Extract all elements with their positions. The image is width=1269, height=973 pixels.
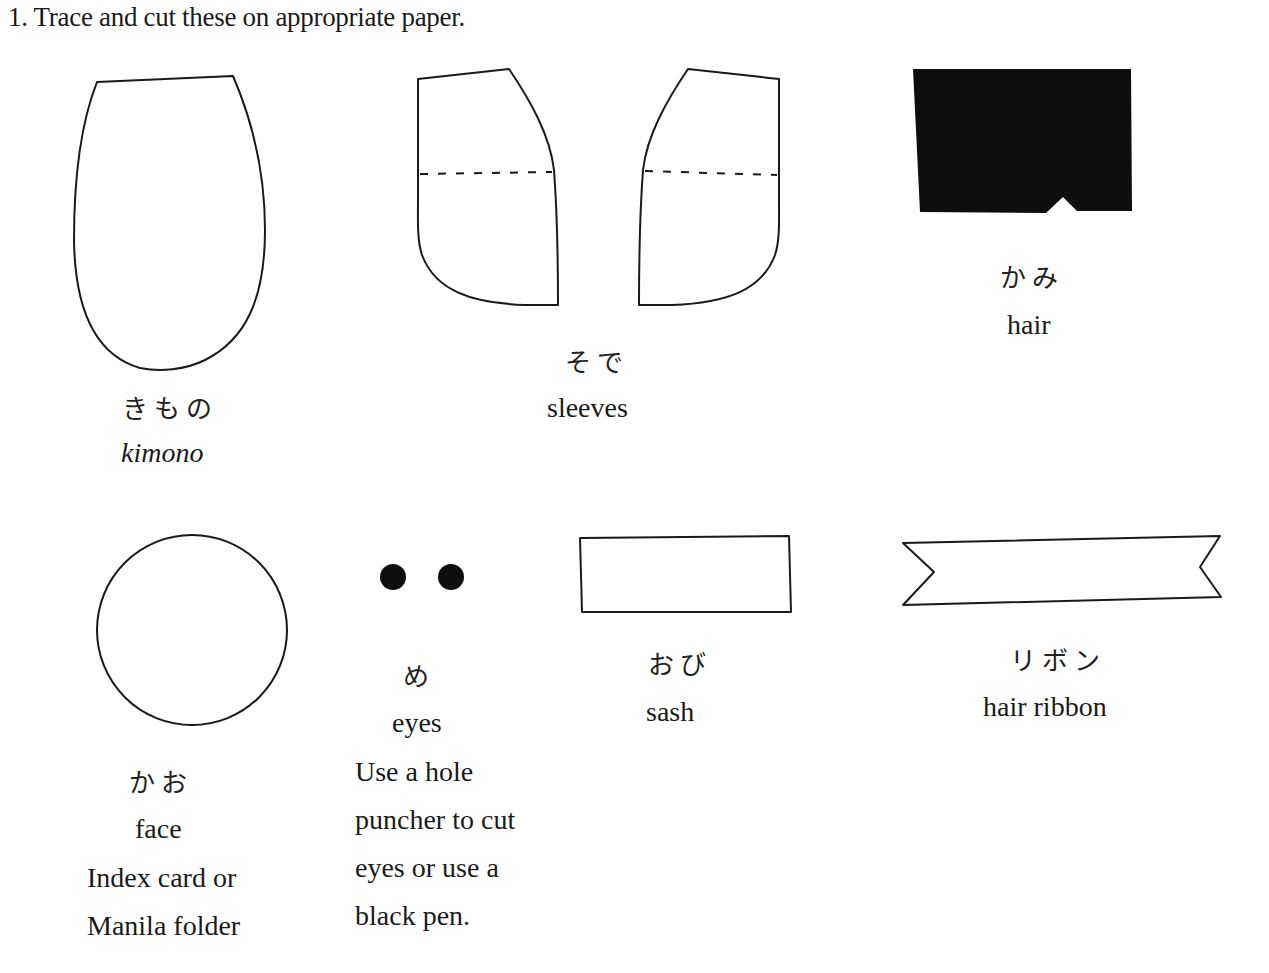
sash-japanese-label: おび xyxy=(648,644,712,681)
eyes-note-line: black pen. xyxy=(355,892,515,940)
hair-shape xyxy=(913,69,1132,213)
sleeve-right-shape xyxy=(639,69,779,305)
kimono-japanese-label: きもの xyxy=(122,388,218,425)
ribbon-english-label: hair ribbon xyxy=(983,691,1107,723)
face-material-note: Index card or Manila folder xyxy=(87,854,240,950)
face-note-line: Index card or xyxy=(87,854,240,902)
sleeve-left-fold-line xyxy=(420,172,552,174)
hair-english-label: hair xyxy=(1007,309,1051,341)
eye-left-shape xyxy=(380,564,406,590)
face-shape xyxy=(97,535,287,725)
ribbon-shape xyxy=(903,536,1221,605)
face-english-label: face xyxy=(135,813,182,845)
sash-english-label: sash xyxy=(646,696,694,728)
eyes-instruction-note: Use a hole puncher to cut eyes or use a … xyxy=(355,748,515,940)
kimono-shape xyxy=(74,76,265,370)
sleeve-left-shape xyxy=(418,69,558,305)
face-note-line: Manila folder xyxy=(87,902,240,950)
sleeve-right-fold-line xyxy=(645,171,777,175)
eyes-japanese-label: め xyxy=(403,656,435,693)
eyes-note-line: puncher to cut xyxy=(355,796,515,844)
eyes-english-label: eyes xyxy=(392,707,442,739)
face-japanese-label: かお xyxy=(129,762,193,799)
kimono-english-label: kimono xyxy=(121,437,203,469)
cutout-shapes xyxy=(0,0,1269,973)
eyes-note-line: eyes or use a xyxy=(355,844,515,892)
hair-japanese-label: かみ xyxy=(1000,257,1064,294)
eye-right-shape xyxy=(438,564,464,590)
sleeves-japanese-label: そで xyxy=(565,342,629,379)
eyes-note-line: Use a hole xyxy=(355,748,515,796)
sleeves-english-label: sleeves xyxy=(547,392,628,424)
sash-shape xyxy=(580,536,791,612)
ribbon-japanese-label: リボン xyxy=(1010,640,1106,677)
